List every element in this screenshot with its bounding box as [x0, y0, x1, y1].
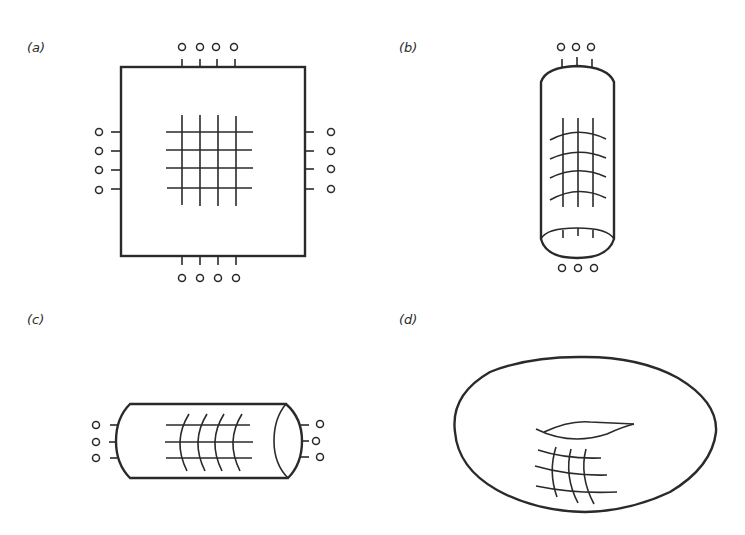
top-terminals: [179, 44, 238, 68]
right-terminals: [301, 421, 324, 461]
bottom-terminals: [179, 256, 240, 282]
right-terminals: [305, 129, 335, 193]
torus-hole: [536, 422, 634, 439]
panel-c: (c): [27, 312, 324, 478]
torus-outline: [454, 357, 716, 512]
panel-b: (b): [399, 40, 614, 272]
left-terminals: [93, 422, 119, 462]
cylinder-lattice-grid: [165, 414, 253, 471]
torus-lattice-grid: [535, 447, 617, 504]
panel-d: (d): [399, 312, 716, 512]
panel-c-label: (c): [27, 312, 44, 327]
panel-d-label: (d): [399, 312, 417, 327]
figure-canvas: (a): [0, 0, 745, 535]
left-terminals: [96, 129, 122, 194]
square-lattice-grid: [166, 115, 253, 206]
panel-b-label: (b): [399, 40, 417, 55]
panel-a: (a): [27, 40, 335, 282]
panel-a-label: (a): [27, 40, 45, 55]
bottom-terminals: [559, 265, 598, 272]
top-terminals: [558, 44, 595, 69]
cylinder-right-rim: [274, 404, 288, 478]
cylinder-lattice-grid: [550, 118, 606, 238]
square-boundary: [121, 67, 305, 256]
